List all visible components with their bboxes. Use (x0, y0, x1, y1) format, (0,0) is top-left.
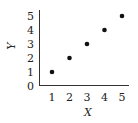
y-tick-label: 1 (27, 66, 34, 79)
y-tick-label: 3 (27, 38, 34, 51)
data-point (120, 14, 125, 19)
data-point (102, 28, 107, 33)
data-point (67, 56, 72, 61)
data-points (50, 14, 125, 75)
y-tick-labels: 012345 (27, 10, 34, 93)
y-axis: 012345 Y (5, 10, 40, 93)
x-tick-labels: 12345 (49, 91, 126, 104)
y-axis-label: Y (5, 41, 18, 50)
x-tick-label: 5 (119, 91, 126, 104)
y-tick-label: 2 (27, 52, 34, 65)
y-tick-label: 4 (27, 24, 34, 37)
x-tick-label: 3 (84, 91, 91, 104)
y-tick-label: 0 (27, 80, 34, 93)
data-point (50, 70, 55, 75)
scatter-chart: 012345 Y 12345 X (0, 0, 138, 123)
x-axis-label: X (83, 106, 93, 119)
x-tick-label: 1 (49, 91, 56, 104)
y-tick-label: 5 (27, 10, 34, 23)
x-axis: 12345 X (39, 86, 129, 120)
x-tick-label: 2 (66, 91, 73, 104)
x-tick-label: 4 (101, 91, 108, 104)
data-point (85, 42, 90, 47)
